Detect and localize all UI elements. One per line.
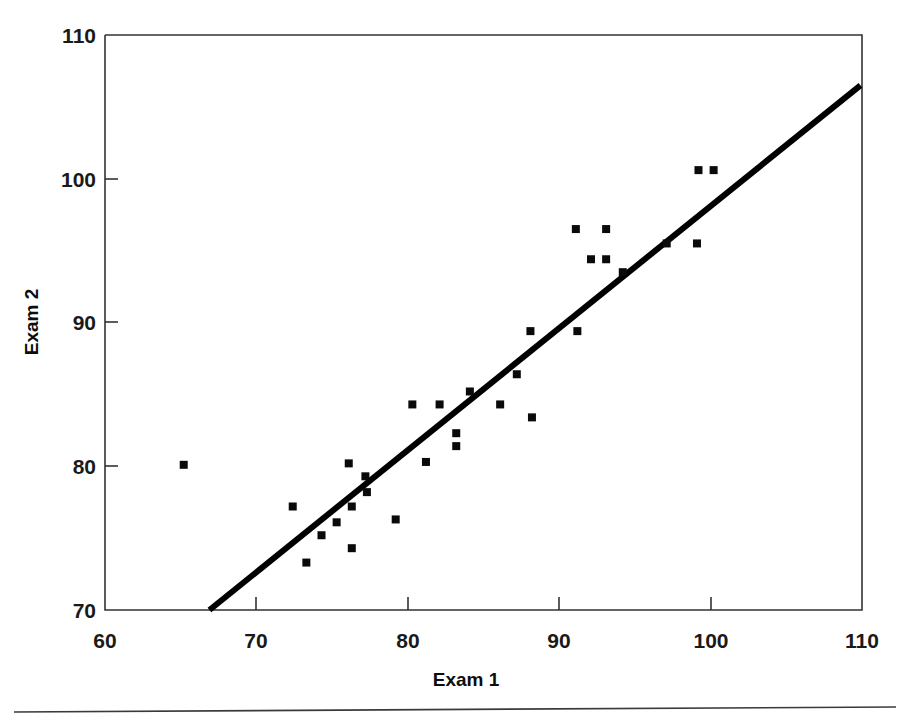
data-point-marker [345, 459, 353, 467]
data-point-marker [348, 544, 356, 552]
y-axis-ticks [105, 179, 118, 466]
data-point-marker [452, 442, 460, 450]
data-points-group [180, 166, 718, 566]
data-point-marker [602, 225, 610, 233]
data-point-marker [513, 370, 521, 378]
data-point-marker [361, 472, 369, 480]
data-point-marker [408, 400, 416, 408]
data-point-marker [693, 239, 701, 247]
data-point-marker [496, 400, 504, 408]
data-point-marker [602, 255, 610, 263]
x-tick-label-90: 90 [547, 629, 570, 652]
data-point-marker [528, 413, 536, 421]
plot-canvas: 110 100 90 80 70 60 70 80 90 100 110 Exa… [0, 0, 906, 725]
data-point-marker [619, 268, 627, 276]
plot-frame [105, 35, 862, 610]
data-point-marker [348, 503, 356, 511]
data-point-marker [466, 388, 474, 396]
x-axis-title: Exam 1 [433, 669, 500, 690]
data-point-marker [587, 255, 595, 263]
data-point-marker [180, 461, 188, 469]
data-point-marker [333, 518, 341, 526]
data-point-marker [526, 327, 534, 335]
x-tick-label-60: 60 [93, 629, 116, 652]
y-axis-title: Exam 2 [21, 289, 42, 356]
data-point-marker [572, 225, 580, 233]
data-point-marker [452, 429, 460, 437]
x-axis-ticks [256, 597, 711, 610]
x-tick-label-70: 70 [244, 629, 267, 652]
x-axis-tick-labels: 60 70 80 90 100 110 [93, 629, 879, 652]
data-point-marker [318, 531, 326, 539]
x-tick-label-100: 100 [693, 629, 728, 652]
data-point-marker [710, 166, 718, 174]
x-tick-label-80: 80 [396, 629, 419, 652]
y-tick-label-80: 80 [73, 455, 96, 478]
y-tick-label-100: 100 [61, 168, 96, 191]
bottom-divider-rule [14, 707, 896, 712]
x-tick-label-110: 110 [845, 629, 879, 652]
y-axis-tick-labels: 110 100 90 80 70 [61, 24, 96, 622]
scatter-plot-figure: 110 100 90 80 70 60 70 80 90 100 110 Exa… [0, 0, 906, 725]
data-point-marker [573, 327, 581, 335]
data-point-marker [663, 239, 671, 247]
data-point-marker [392, 515, 400, 523]
data-point-marker [436, 400, 444, 408]
data-point-marker [363, 488, 371, 496]
data-point-marker [302, 559, 310, 567]
data-point-marker [694, 166, 702, 174]
y-tick-label-110: 110 [62, 24, 96, 47]
y-tick-label-70: 70 [73, 599, 96, 622]
regression-trendline [209, 85, 860, 610]
y-tick-label-90: 90 [73, 311, 96, 334]
data-point-marker [289, 503, 297, 511]
data-point-marker [422, 458, 430, 466]
